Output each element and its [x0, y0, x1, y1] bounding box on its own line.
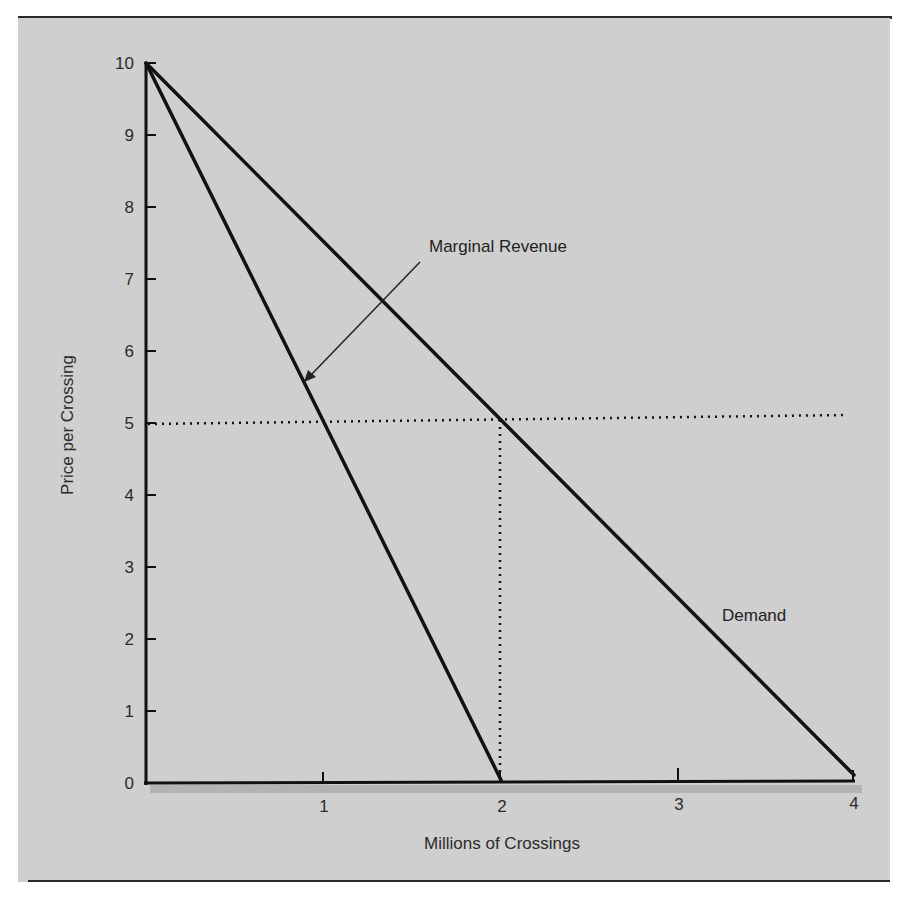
y-tick-label: 4: [125, 486, 134, 505]
y-tick-labels: 0 1 2 3 4 5 6 7 8 9 10: [115, 54, 134, 793]
x-tick-label: 1: [319, 797, 328, 816]
y-tick-label: 7: [125, 270, 134, 289]
x-tick-labels: 1 2 3 4: [319, 794, 858, 816]
y-tick-label: 10: [115, 54, 134, 73]
demand-line: [146, 63, 854, 775]
y-tick-label: 5: [125, 414, 134, 433]
y-tick-label: 2: [125, 630, 134, 649]
x-tick-label: 4: [849, 794, 858, 813]
y-tick-label: 8: [125, 198, 134, 217]
y-tick-label: 3: [125, 558, 134, 577]
y-tick-label: 9: [125, 126, 134, 145]
chart-plot: 0 1 2 3 4 5 6 7 8 9 10 1 2 3 4 Millions …: [0, 0, 910, 898]
marginal-revenue-line: [146, 63, 501, 780]
y-axis-title: Price per Crossing: [58, 355, 77, 495]
marginal-revenue-label: Marginal Revenue: [429, 237, 567, 256]
x-axis-title: Millions of Crossings: [424, 834, 580, 853]
y-tick-label: 1: [125, 702, 134, 721]
demand-label: Demand: [722, 606, 786, 625]
x-tick-label: 3: [674, 795, 683, 814]
x-axis-shadow: [150, 785, 862, 793]
annotation-arrow: [310, 262, 420, 376]
x-tick-label: 2: [497, 797, 506, 816]
y-tick-label: 0: [125, 774, 134, 793]
y-tick-label: 6: [125, 342, 134, 361]
